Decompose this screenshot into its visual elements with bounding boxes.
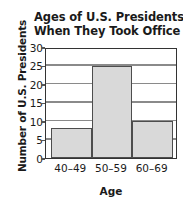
bar [132, 121, 173, 158]
x-tick-label: 60–69 [122, 163, 182, 174]
bar [92, 66, 133, 159]
y-tick-label: 30 [21, 43, 43, 54]
chart-title-line-1: Ages of U.S. Presidents [34, 11, 180, 25]
y-tick-label: 15 [21, 98, 43, 109]
y-tick-label: 20 [21, 80, 43, 91]
x-axis-title: Age [45, 185, 177, 197]
chart-title: Ages of U.S. Presidents When They Took O… [34, 11, 180, 38]
y-tick-label: 5 [21, 135, 43, 146]
chart-title-line-2: When They Took Office [34, 25, 180, 39]
plot-area [45, 48, 177, 159]
y-tick-label: 25 [21, 61, 43, 72]
bar [51, 128, 92, 158]
bar-series [46, 49, 176, 158]
y-tick-label: 10 [21, 117, 43, 128]
